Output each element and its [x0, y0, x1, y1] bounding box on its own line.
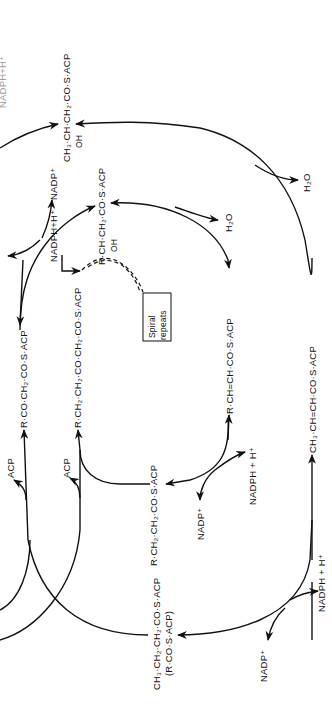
acyl-label: R·CH₂·CH₂·CO·S·ACP [148, 465, 159, 566]
h2o-outer-label: H₂O [301, 173, 312, 192]
spiral-dashed-line-a [82, 258, 143, 292]
acp-inner-label: ACP [61, 458, 72, 478]
arrow-nadph-spiral [62, 255, 80, 271]
spiral-box-line2: repeats [158, 310, 168, 340]
hydroxybutyryl-oh-label: OH [74, 135, 84, 148]
enoyl-label: R·CH=CH·CO·S·ACP [224, 318, 235, 414]
fatty-acid-spiral-diagram: Spiral repeats NADPH+H⁺ CH₃·CH·CH₂·CO·S·… [0, 0, 332, 713]
spiral-box-line1: Spiral [147, 315, 157, 338]
arrow-ketoacyl-down [20, 260, 23, 325]
acp-outer-label: ACP [5, 458, 16, 478]
nadp-mid-label: NADP⁺ [195, 508, 206, 540]
arrow-h2o-inner [175, 207, 218, 220]
arrow-left-arc-outer [0, 540, 30, 610]
arrow-enoyl-up [228, 415, 229, 440]
butyryl-alias-label: (R·CO·S·ACP) [163, 611, 174, 676]
nadph-spiral-label: NADPH+H⁺ [48, 210, 59, 262]
nadph-mid-label: NADPH + H⁺ [247, 447, 258, 505]
hydroxyacyl-label: R·CH·CH₂·CO·S·ACP [96, 168, 107, 265]
arrow-acp-outer [14, 480, 26, 500]
arrow-to-hydroxybutyryl-top [0, 124, 58, 148]
ketoacyl-chain-label: R·CH₂·CH₂·CO·CH₂·CO·S·ACP [72, 287, 83, 428]
butyryl-label: CH₃·CH₂·CH₂·CO·S·ACP [151, 578, 162, 690]
arrow-nadph-top [8, 240, 40, 256]
hydroxybutyryl-label: CH₃·CH·CH₂·CO·S·ACP [61, 54, 72, 162]
cut-off-label: NADPH+H⁺ [0, 56, 8, 108]
nadph-bottom-label: NADPH + H⁺ [316, 554, 327, 612]
nadp-bottom-label: NADP⁺ [258, 650, 269, 682]
arrow-nadp-bottom [268, 608, 285, 640]
hydroxyacyl-oh-label: OH [109, 239, 119, 252]
arrow-acp-inner [70, 478, 80, 498]
h2o-inner-label: H₂O [223, 213, 234, 232]
crotonyl-label: CH₃·CH=CH·CO·S·ACP [307, 346, 318, 453]
arrow-enoyl-to-acyl [166, 418, 228, 484]
arrow-acyl-to-ketoacyl-chain [78, 430, 150, 484]
arrow-hydroxyacyl-enoyl [111, 203, 229, 268]
spiral-repeats-box: Spiral repeats [143, 293, 171, 341]
nadp-top-label: NADP⁺ [48, 168, 59, 200]
arrow-crotonyl-down [305, 240, 312, 274]
arrow-ketoacyl-column [24, 430, 28, 540]
ketoacyl-label: R·CO·CH₂·CO·S·ACP [18, 330, 29, 428]
arrow-butyryl-curve-left [28, 540, 148, 635]
arrow-hydroxybutyryl-from-crotonyl [76, 122, 305, 240]
